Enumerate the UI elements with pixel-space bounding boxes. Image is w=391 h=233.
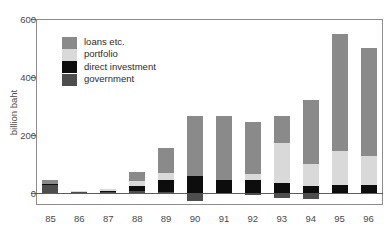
bar-segment: [129, 191, 145, 193]
bar-group[interactable]: [129, 19, 145, 205]
legend-swatch-icon: [62, 49, 77, 61]
bar-segment: [216, 180, 232, 193]
x-tick-label: 86: [74, 213, 85, 224]
bar-segment: [187, 176, 203, 193]
legend-swatch-icon: [62, 74, 77, 86]
bar-group[interactable]: [216, 19, 232, 205]
x-tick-label: 91: [219, 213, 230, 224]
bar-group[interactable]: [303, 19, 319, 205]
bar-segment: [158, 148, 174, 173]
legend-label: loans etc.: [84, 36, 125, 47]
x-tick-label: 96: [363, 213, 374, 224]
bar-segment: [216, 116, 232, 180]
bar-segment: [42, 184, 58, 185]
bar-segment: [187, 193, 203, 200]
legend-label: government: [84, 73, 134, 84]
bar-group[interactable]: [332, 19, 348, 205]
x-tick-label: 87: [103, 213, 114, 224]
x-tick-label: 89: [161, 213, 172, 224]
bar-segment: [158, 180, 174, 192]
bar-segment: [274, 193, 290, 197]
bar-group[interactable]: [245, 19, 261, 205]
bar-segment: [129, 186, 145, 191]
bar-segment: [274, 143, 290, 184]
y-axis: billion baht 0200400600: [0, 19, 36, 205]
bar-segment: [129, 172, 145, 182]
x-axis: 858687888990919293949596: [36, 206, 383, 230]
x-tick-label: 88: [132, 213, 143, 224]
legend-swatch-icon: [62, 37, 77, 49]
bar-segment: [303, 193, 319, 199]
x-tick-label: 92: [248, 213, 259, 224]
clipped-caption-strip: [0, 0, 391, 9]
bar-group[interactable]: [361, 19, 377, 205]
bar-segment: [245, 174, 261, 180]
bar-segment: [361, 185, 377, 194]
bar-segment: [158, 192, 174, 193]
bar-segment: [361, 156, 377, 185]
bar-group[interactable]: [42, 19, 58, 205]
bar-segment: [129, 181, 145, 185]
bar-segment: [332, 151, 348, 184]
legend-label: direct investment: [84, 61, 156, 72]
bar-segment: [71, 191, 87, 192]
bar-segment: [303, 186, 319, 193]
bar-segment: [245, 193, 261, 194]
bar-segment: [42, 185, 58, 194]
bar-segment: [42, 180, 58, 184]
x-tick-label: 95: [334, 213, 345, 224]
x-tick-label: 85: [45, 213, 56, 224]
bar-segment: [274, 116, 290, 142]
bar-segment: [274, 183, 290, 193]
bar-segment: [303, 164, 319, 186]
bar-segment: [100, 192, 116, 193]
bar-segment: [100, 189, 116, 191]
bar-segment: [303, 100, 319, 164]
y-tick-label: 200: [6, 130, 36, 141]
bar-segment: [361, 48, 377, 156]
bar-segment: [158, 173, 174, 180]
x-tick-label: 93: [276, 213, 287, 224]
bar-segment: [71, 192, 87, 193]
x-tick-label: 90: [190, 213, 201, 224]
bar-segment: [187, 116, 203, 176]
legend-label: portfolio: [84, 48, 118, 59]
stacked-bar-chart-figure: billion baht 0200400600 8586878889909192…: [0, 0, 391, 233]
bar-segment: [100, 191, 116, 192]
y-tick-label: 400: [6, 72, 36, 83]
bar-segment: [245, 122, 261, 174]
y-tick-label: 0: [6, 188, 36, 199]
x-tick-label: 94: [305, 213, 316, 224]
y-tick-label: 600: [6, 14, 36, 25]
bar-group[interactable]: [274, 19, 290, 205]
bar-segment: [332, 34, 348, 152]
legend-swatch-icon: [62, 61, 77, 73]
bar-segment: [332, 185, 348, 194]
bar-group[interactable]: [158, 19, 174, 205]
bar-group[interactable]: [187, 19, 203, 205]
bar-segment: [245, 180, 261, 193]
